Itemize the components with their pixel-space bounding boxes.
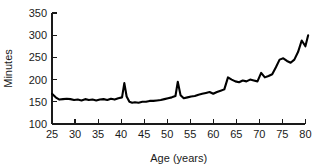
- x-tick-label: 65: [230, 128, 242, 140]
- x-axis-tick-labels: 253035404550556065707580: [46, 128, 312, 140]
- y-axis-title: Minutes: [2, 49, 14, 88]
- y-tick-label: 350: [29, 7, 47, 19]
- x-axis-title: Age (years): [150, 152, 207, 164]
- line-chart: 100150200250300350 253035404550556065707…: [0, 0, 318, 168]
- y-tick-label: 300: [29, 29, 47, 41]
- y-axis-tick-labels: 100150200250300350: [29, 7, 47, 130]
- y-tick-label: 100: [29, 118, 47, 130]
- x-tick-label: 40: [115, 128, 127, 140]
- y-axis-tick-marks: [52, 13, 57, 124]
- y-tick-label: 250: [29, 51, 47, 63]
- chart-container: 100150200250300350 253035404550556065707…: [0, 0, 318, 168]
- x-tick-label: 70: [253, 128, 265, 140]
- x-tick-label: 45: [138, 128, 150, 140]
- x-tick-label: 25: [46, 128, 58, 140]
- x-axis-tick-marks: [52, 119, 305, 124]
- x-tick-label: 55: [184, 128, 196, 140]
- x-tick-label: 30: [69, 128, 81, 140]
- x-tick-label: 50: [161, 128, 173, 140]
- x-tick-label: 80: [299, 128, 311, 140]
- x-tick-label: 60: [207, 128, 219, 140]
- x-tick-label: 35: [92, 128, 104, 140]
- y-tick-label: 200: [29, 74, 47, 86]
- x-tick-label: 75: [276, 128, 288, 140]
- y-tick-label: 150: [29, 96, 47, 108]
- data-series-line: [52, 35, 308, 102]
